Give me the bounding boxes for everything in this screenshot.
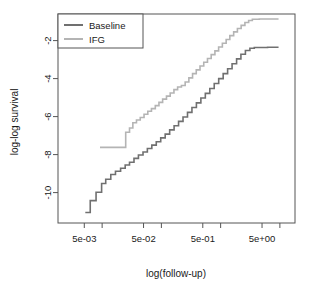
x-tick-label: 5e+00 xyxy=(249,233,276,244)
chart-legend[interactable]: Baseline IFG xyxy=(58,14,143,48)
x-tick-label: 5e-02 xyxy=(131,233,155,244)
y-axis-title: log-log survival xyxy=(9,89,20,156)
chart-figure: 5e-035e-025e-015e+00 -2-4-6-8-10 log(fol… xyxy=(0,0,315,289)
x-tick-label: 5e-01 xyxy=(191,233,215,244)
loglog-survival-plot: 5e-035e-025e-015e+00 -2-4-6-8-10 log(fol… xyxy=(0,0,315,289)
y-tick-label: -8 xyxy=(42,150,53,158)
legend-label-baseline: Baseline xyxy=(89,20,125,31)
legend-label-ifg: IFG xyxy=(89,34,105,45)
y-tick-label: -6 xyxy=(42,112,53,120)
y-tick-label: -10 xyxy=(42,186,53,200)
x-tick-label: 5e-03 xyxy=(72,233,96,244)
y-tick-label: -2 xyxy=(42,36,53,44)
y-tick-label: -4 xyxy=(42,74,53,82)
x-axis-title: log(follow-up) xyxy=(146,268,206,279)
